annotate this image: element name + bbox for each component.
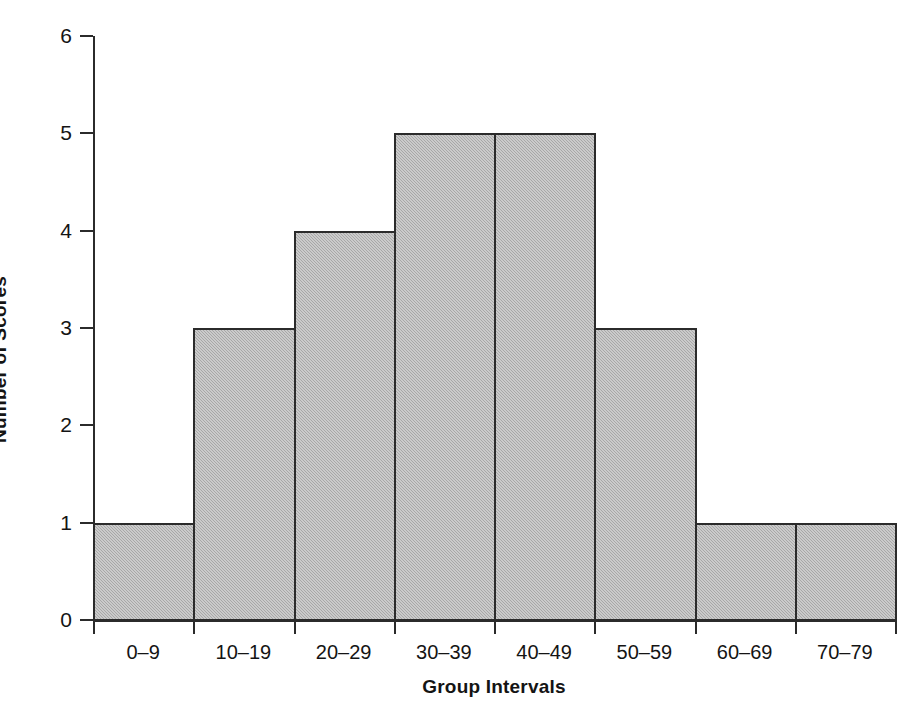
y-tick-mark [80, 619, 93, 621]
histogram-bar [93, 523, 195, 621]
x-tick-mark [294, 621, 296, 634]
y-tick-mark [80, 230, 93, 232]
x-tick-mark [895, 621, 897, 634]
histogram-bar [294, 231, 396, 621]
y-tick-label: 6 [40, 24, 72, 48]
histogram-bar [394, 133, 496, 621]
x-tick-mark [494, 621, 496, 634]
y-tick-mark [80, 522, 93, 524]
x-tick-mark [93, 621, 95, 634]
y-tick-mark [80, 424, 93, 426]
x-tick-label: 70–79 [785, 641, 905, 664]
x-tick-mark [594, 621, 596, 634]
y-tick-label: 5 [40, 121, 72, 145]
y-tick-label: 3 [40, 316, 72, 340]
histogram-bar [193, 328, 295, 621]
y-tick-mark [80, 132, 93, 134]
x-tick-mark [795, 621, 797, 634]
y-tick-mark [80, 327, 93, 329]
y-tick-mark [80, 35, 93, 37]
x-tick-mark [695, 621, 697, 634]
y-tick-label: 4 [40, 219, 72, 243]
y-tick-label: 1 [40, 511, 72, 535]
x-tick-mark [193, 621, 195, 634]
y-tick-label: 0 [40, 608, 72, 632]
x-axis-title: Group Intervals [93, 676, 895, 698]
y-tick-label: 2 [40, 413, 72, 437]
histogram-bar [594, 328, 696, 621]
histogram-bar [695, 523, 797, 621]
histogram-figure: Number of Scores 0123456 0–910–1920–2930… [0, 0, 911, 719]
histogram-bar [494, 133, 596, 621]
histogram-bar [795, 523, 897, 621]
x-tick-mark [394, 621, 396, 634]
